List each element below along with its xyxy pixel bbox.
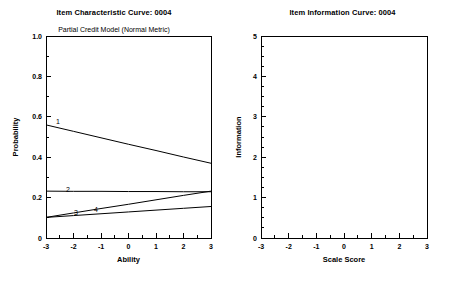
icc-curve-4 <box>46 191 211 217</box>
icc-ytick-label-2: 0.4 <box>32 154 42 161</box>
icc-ytick-label-0: 0 <box>38 235 42 242</box>
icc-y-axis-ticks <box>46 36 51 238</box>
icc-xtick-label-5: 2 <box>182 243 186 250</box>
iic-ytick-label-2: 2 <box>253 154 257 161</box>
iic-xtick-label-1: -2 <box>286 243 292 250</box>
iic-xtick-label-6: 3 <box>425 243 429 250</box>
icc-curve-3 <box>46 206 211 217</box>
icc-x-axis-title: Ability <box>117 255 141 264</box>
icc-curve-2 <box>46 191 211 192</box>
icc-y-axis-title: Probability <box>11 117 20 157</box>
icc-xtick-label-1: -2 <box>70 243 76 250</box>
icc-ytick-label-3: 0.6 <box>32 113 42 120</box>
iic-ytick-label-4: 4 <box>253 73 257 80</box>
icc-curve-label-2: 2 <box>66 186 70 193</box>
iic-x-axis-ticks <box>261 233 427 238</box>
iic-xtick-label-0: -3 <box>258 243 264 250</box>
icc-x-axis-ticks <box>46 233 211 238</box>
iic-y-axis-title: Information <box>234 116 243 158</box>
iic-x-axis-title: Scale Score <box>323 255 366 264</box>
item-characteristic-curve-panel: Item Characteristic Curve: 0004 Partial … <box>0 0 228 288</box>
icc-xtick-label-2: -1 <box>98 243 104 250</box>
iic-ytick-label-3: 3 <box>253 113 257 120</box>
iic-xtick-label-4: 1 <box>370 243 374 250</box>
icc-ytick-label-4: 0.8 <box>32 73 42 80</box>
icc-xtick-label-4: 1 <box>154 243 158 250</box>
icc-curve-label-1: 1 <box>56 118 60 125</box>
iic-xtick-label-3: 0 <box>342 243 346 250</box>
iic-ytick-label-5: 5 <box>253 33 257 40</box>
icc-curve-label-3: 3 <box>74 209 78 216</box>
icc-xtick-label-0: -3 <box>43 243 49 250</box>
iic-ytick-label-1: 1 <box>253 194 257 201</box>
icc-ytick-label-1: 0.2 <box>32 194 42 201</box>
icc-curve-1 <box>46 125 211 163</box>
icc-plot-area: 0 0.2 0.4 0.6 0.8 1.0 -3 -2 -1 0 1 2 3 <box>0 0 228 288</box>
icc-ytick-label-5: 1.0 <box>32 33 42 40</box>
icc-xtick-label-6: 3 <box>209 243 213 250</box>
item-information-curve-panel: Item Information Curve: 0004 <box>228 0 457 288</box>
iic-plot-area: 0 1 2 3 4 5 -3 -2 -1 0 1 2 3 Scale <box>228 0 457 288</box>
icc-xtick-label-3: 0 <box>127 243 131 250</box>
iic-xtick-label-2: -1 <box>313 243 319 250</box>
iic-y-axis-ticks <box>261 36 266 238</box>
iic-plot-frame <box>261 36 427 238</box>
iic-xtick-label-5: 2 <box>397 243 401 250</box>
iic-ytick-label-0: 0 <box>253 235 257 242</box>
icc-curve-label-4: 4 <box>94 206 98 213</box>
